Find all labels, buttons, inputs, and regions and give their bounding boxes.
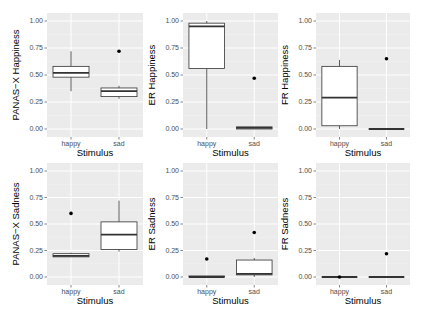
y-tick-label: 0.75	[29, 194, 43, 201]
panel-3: 0.000.250.500.751.00happysadStimulusFR H…	[279, 13, 410, 158]
y-tick-label: 0.50	[165, 71, 179, 78]
y-tick-label: 0.00	[29, 273, 43, 280]
outlier-point	[117, 49, 121, 53]
panel-1: 0.000.250.500.751.00happysadStimulusPANA…	[10, 13, 143, 158]
y-tick-label: 1.00	[29, 167, 43, 174]
y-tick-label: 0.00	[298, 125, 312, 132]
panel-5: 0.000.250.500.751.00happysadStimulusER S…	[146, 163, 278, 306]
y-tick-label: 0.75	[29, 44, 43, 51]
x-axis-title: Stimulus	[212, 295, 249, 306]
outlier-point	[385, 252, 389, 256]
y-tick-label: 0.50	[29, 71, 43, 78]
outlier-point	[69, 212, 73, 216]
outlier-point	[252, 76, 256, 80]
x-tick-label: sad	[381, 140, 392, 147]
y-tick-label: 0.75	[165, 194, 179, 201]
x-axis-title: Stimulus	[212, 147, 249, 158]
panel-4: 0.000.250.500.751.00happysadStimulusPANA…	[10, 163, 143, 306]
x-tick-label: sad	[113, 288, 124, 295]
y-axis-title: ER Happiness	[146, 44, 157, 105]
outlier-point	[338, 275, 342, 279]
y-tick-label: 1.00	[165, 167, 179, 174]
box-iqr	[101, 222, 137, 250]
y-axis-title: PANAS−X Happiness	[10, 29, 21, 120]
boxplot-grid: 0.000.250.500.751.00happysadStimulusPANA…	[0, 0, 427, 320]
x-tick-label: sad	[249, 288, 260, 295]
x-axis-title: Stimulus	[77, 295, 114, 306]
x-tick-label: sad	[381, 288, 392, 295]
x-tick-label: sad	[249, 140, 260, 147]
x-axis-title: Stimulus	[345, 147, 382, 158]
y-axis-title: ER Sadness	[146, 197, 157, 250]
outlier-point	[385, 57, 389, 61]
y-tick-label: 0.75	[165, 44, 179, 51]
y-tick-label: 0.50	[298, 220, 312, 227]
panel-2: 0.000.250.500.751.00happysadStimulusER H…	[146, 13, 278, 158]
x-axis-title: Stimulus	[77, 147, 114, 158]
y-tick-label: 1.00	[298, 167, 312, 174]
y-tick-label: 1.00	[298, 17, 312, 24]
box-iqr	[322, 66, 357, 125]
y-tick-label: 0.25	[165, 98, 179, 105]
y-tick-label: 0.00	[29, 125, 43, 132]
y-tick-label: 0.50	[29, 220, 43, 227]
y-tick-label: 0.25	[298, 98, 312, 105]
y-axis-title: FR Happiness	[279, 45, 290, 105]
panel-6: 0.000.250.500.751.00happysadStimulusFR S…	[279, 163, 410, 306]
outlier-point	[252, 231, 256, 235]
y-tick-label: 0.25	[165, 247, 179, 254]
y-tick-label: 0.00	[165, 273, 179, 280]
y-tick-label: 0.50	[165, 220, 179, 227]
x-tick-label: sad	[113, 140, 124, 147]
y-tick-label: 0.25	[298, 247, 312, 254]
outlier-point	[205, 257, 209, 261]
y-tick-label: 0.50	[298, 71, 312, 78]
box-iqr	[189, 23, 225, 68]
y-tick-label: 0.75	[298, 194, 312, 201]
box-happy	[322, 60, 357, 129]
y-tick-label: 0.25	[29, 247, 43, 254]
x-axis-title: Stimulus	[345, 295, 382, 306]
y-tick-label: 0.75	[298, 44, 312, 51]
y-tick-label: 1.00	[29, 17, 43, 24]
box-iqr	[236, 260, 272, 275]
y-axis-title: FR Sadness	[279, 198, 290, 251]
y-tick-label: 1.00	[165, 17, 179, 24]
box-iqr	[101, 88, 137, 97]
y-tick-label: 0.00	[298, 273, 312, 280]
y-tick-label: 0.25	[29, 98, 43, 105]
y-tick-label: 0.00	[165, 125, 179, 132]
box-iqr	[53, 66, 89, 77]
y-axis-title: PANAS−X Sadness	[10, 182, 21, 265]
